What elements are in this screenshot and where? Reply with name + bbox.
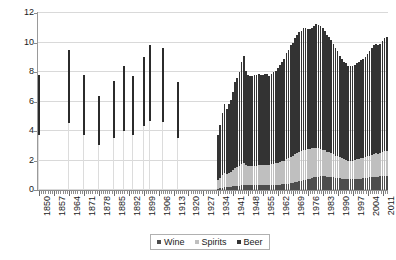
x-tick-minor [82,191,83,194]
x-tick-minor [381,191,382,194]
y-tick-label-8: 8 [4,67,34,76]
sparse-bar [98,96,100,190]
x-tick-label: 1899 [148,196,157,216]
x-tick-minor [50,191,51,194]
x-tick-label: 1990 [342,196,351,216]
sparse-bar-cap [68,50,70,123]
x-tick-label: 1941 [237,196,246,216]
x-tick-minor [80,191,81,194]
x-tick-minor [92,191,93,194]
x-tick-minor [295,191,296,194]
x-tick-minor [336,191,337,194]
x-tick-label: 1976 [312,196,321,216]
x-tick-label: 1920 [192,196,201,216]
x-tick-minor [246,191,247,194]
x-tick-minor [120,191,121,194]
sparse-bar [162,48,164,190]
x-axis-labels: 1850185719641871187818851892189919061913… [0,196,392,236]
x-tick-minor [75,191,76,194]
y-tick-label-10: 10 [4,38,34,47]
x-tick-minor [349,191,350,194]
sparse-bar [113,81,115,190]
x-tick-minor [171,191,172,194]
x-tick-minor [340,191,341,194]
x-tick-minor [131,191,132,194]
sparse-bar [149,45,151,190]
x-tick-minor [86,191,87,194]
x-tick-minor [306,191,307,194]
x-tick-minor [133,191,134,194]
x-tick-minor [244,191,245,194]
sparse-bar [123,66,125,190]
x-tick-minor [366,191,367,194]
x-tick-minor [146,191,147,194]
x-tick-minor [45,191,46,194]
legend-label: Spirits [202,238,227,247]
x-tick-minor [191,191,192,194]
x-tick-minor [284,191,285,194]
x-tick-minor [299,191,300,194]
x-tick-minor [63,191,64,194]
x-tick-minor [231,191,232,194]
sparse-bar-cap [177,82,179,138]
x-tick-minor [41,191,42,194]
x-tick-minor [359,191,360,194]
x-tick-minor [135,191,136,194]
x-tick-minor [109,191,110,194]
x-tick-minor [378,191,379,194]
sparse-bar-cap [123,66,125,130]
x-tick-minor [67,191,68,194]
x-tick-label: 2011 [387,196,396,215]
bar-segment-wine [386,176,388,190]
x-tick-label: 1934 [222,196,231,216]
y-tick-label-2: 2 [4,156,34,165]
x-tick-minor [370,191,371,194]
x-tick-minor [156,191,157,194]
x-tick-minor [60,191,61,194]
x-tick-minor [282,191,283,194]
x-tick-minor [223,191,224,194]
sparse-bar [177,82,179,190]
x-tick-minor [176,191,177,194]
sparse-bar-cap [143,57,145,126]
x-tick-minor [257,191,258,194]
x-tick-label: 1892 [133,196,142,216]
x-tick-minor [214,191,215,194]
x-tick-minor [88,191,89,194]
x-tick-minor [235,191,236,194]
legend-item-spirits[interactable]: Spirits [195,238,227,247]
sparse-bar [143,57,145,190]
x-tick-label: 1962 [282,196,291,216]
gridline-12 [38,12,388,13]
x-tick-minor [163,191,164,194]
x-tick-minor [124,191,125,194]
x-tick-minor [103,191,104,194]
y-axis-line [37,12,38,191]
x-tick-minor [165,191,166,194]
x-tick-minor [193,191,194,194]
x-tick-minor [342,191,343,194]
x-tick-label: 1906 [163,196,172,216]
x-tick-label: 1857 [58,196,67,216]
x-tick-minor [206,191,207,194]
legend-swatch-beer-icon [237,240,241,244]
x-tick-minor [302,191,303,194]
x-tick-label: 1948 [252,196,261,216]
x-tick-minor [178,191,179,194]
x-tick-label: 1969 [297,196,306,216]
x-tick-minor [317,191,318,194]
legend-item-beer[interactable]: Beer [237,238,263,247]
x-tick-minor [118,191,119,194]
x-tick-minor [385,191,386,194]
legend-item-wine[interactable]: Wine [157,238,185,247]
sparse-bar [83,75,85,190]
x-tick-minor [252,191,253,194]
x-tick-label: 1997 [357,196,366,216]
plot-area [38,13,388,190]
gridline-10 [38,42,388,43]
legend-swatch-wine-icon [157,240,161,244]
x-tick-minor [56,191,57,194]
x-tick-minor [116,191,117,194]
sparse-bar-cap [132,76,134,135]
